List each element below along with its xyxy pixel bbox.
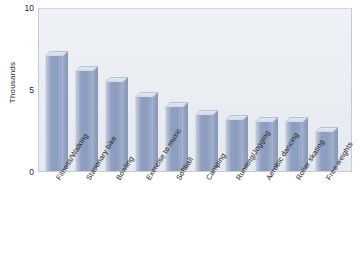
x-axis-label: Bowling bbox=[114, 154, 136, 181]
x-axis-label: Stationary bike bbox=[84, 134, 118, 182]
x-axis-labels: Fitness/WalkingStationary bikeBowlingExe… bbox=[0, 0, 361, 264]
x-axis-label: Roller skating bbox=[294, 138, 326, 182]
x-axis-label: Camping bbox=[204, 151, 228, 181]
x-axis-label: Softball bbox=[174, 155, 195, 181]
bar-chart: Men and Women Thousands 0510 Fitness/Wal… bbox=[0, 0, 361, 264]
x-axis-label: Free weights bbox=[324, 140, 355, 182]
